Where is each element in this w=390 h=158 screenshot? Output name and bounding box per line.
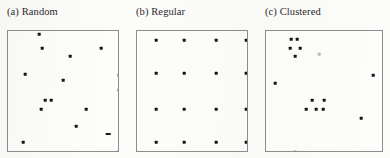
data-point [183,39,186,42]
data-point [155,141,158,144]
data-point [299,47,302,50]
data-point [62,79,65,82]
data-point [155,39,158,42]
data-point [323,99,326,102]
data-point [245,39,248,42]
data-point [215,108,218,111]
data-point [75,125,78,128]
data-point [215,39,218,42]
data-point [183,141,186,144]
data-point [305,108,308,111]
data-point [311,99,314,102]
panel-regular: (b) Regular [136,0,248,158]
data-point [322,108,325,111]
data-point [38,33,41,36]
data-point [360,117,363,120]
panel-clustered: (c) Clustered [265,0,383,158]
data-point [117,151,119,152]
data-point [245,72,248,75]
panel-caption-random: (a) Random [7,5,58,18]
plot-frame-clustered [265,30,383,152]
data-point [44,99,47,102]
data-point [290,38,293,41]
data-point [118,74,119,77]
data-point [41,47,44,50]
data-point [118,89,119,92]
data-point [50,99,53,102]
data-point [24,73,27,76]
data-point [289,47,292,50]
data-point [100,47,103,50]
data-point [155,72,158,75]
data-point [274,82,277,85]
data-point [155,108,158,111]
data-point [183,108,186,111]
data-point [106,133,111,135]
data-point [22,141,25,144]
data-point [183,72,186,75]
data-point [69,55,72,58]
plot-frame-random [7,30,119,152]
data-point [294,151,297,152]
data-point [315,108,318,111]
data-point [294,55,297,58]
data-point [85,108,88,111]
data-point [296,38,299,41]
panel-caption-regular: (b) Regular [136,5,185,18]
plot-frame-regular [136,30,248,152]
panel-random: (a) Random [7,0,119,158]
data-point [40,108,43,111]
data-point [215,72,218,75]
data-point [372,74,375,77]
point-pattern-figure: (a) Random (b) Regular (c) Clustered [0,0,390,158]
panel-caption-clustered: (c) Clustered [265,5,321,18]
data-point [318,53,321,56]
data-point [245,141,248,144]
data-point [245,108,248,111]
data-point [215,141,218,144]
